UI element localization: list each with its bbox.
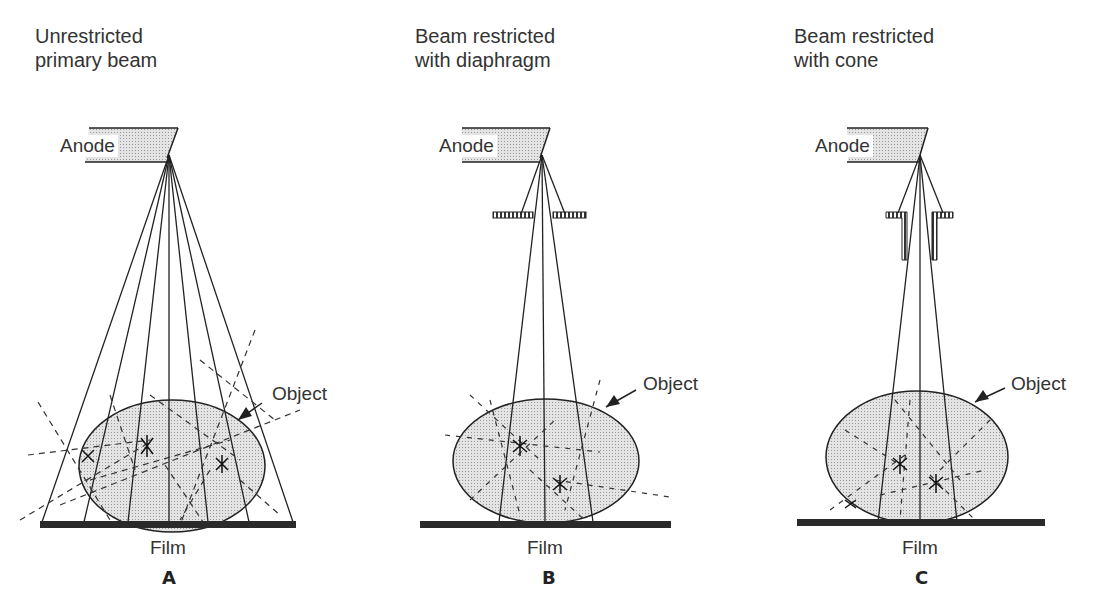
panel-b [420,128,671,528]
object-label-c: Object [1011,373,1066,395]
film [420,521,671,528]
object-arrow-icon [975,390,989,402]
film [40,521,296,528]
anode-label-a: Anode [57,135,118,157]
diagram-canvas [0,0,1097,604]
object [826,391,1008,523]
panel-a [20,128,300,532]
film [797,519,1045,526]
object [453,399,639,523]
cone-right [932,212,953,260]
panel-letter-b: B [542,567,556,588]
object-label-b: Object [643,373,698,395]
panel-c [797,128,1045,526]
diaphragm-left [493,212,533,218]
anode-label-b: Anode [436,135,497,157]
panel-letter-c: C [915,567,928,588]
film-label-b: Film [527,537,563,559]
object-arrow-icon [238,407,252,420]
diaphragm-right [553,212,586,218]
anode-label-c: Anode [812,135,873,157]
film-label-a: Film [150,537,186,559]
panel-letter-a: A [162,567,176,588]
cone-left [886,212,907,260]
object-arrow-icon [606,395,620,407]
object-label-a: Object [272,383,327,405]
film-label-c: Film [902,537,938,559]
